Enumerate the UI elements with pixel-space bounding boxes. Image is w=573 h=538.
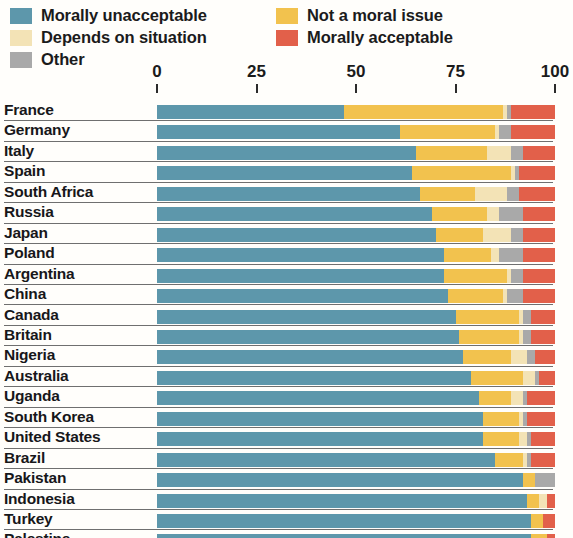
- bar-segment-other[interactable]: [499, 248, 523, 262]
- stacked-bar[interactable]: [157, 310, 555, 324]
- bar-segment-other[interactable]: [523, 310, 531, 324]
- stacked-bar[interactable]: [157, 289, 555, 303]
- bar-segment-unacceptable[interactable]: [157, 350, 463, 364]
- bar-segment-acceptable[interactable]: [523, 248, 555, 262]
- bar-segment-not_issue[interactable]: [456, 310, 520, 324]
- bar-segment-other[interactable]: [499, 125, 511, 139]
- bar-segment-not_issue[interactable]: [420, 187, 476, 201]
- bar-segment-acceptable[interactable]: [547, 494, 555, 508]
- bar-segment-unacceptable[interactable]: [157, 432, 483, 446]
- bar-segment-other[interactable]: [511, 146, 523, 160]
- bar-segment-depends[interactable]: [523, 371, 535, 385]
- bar-segment-other[interactable]: [523, 330, 531, 344]
- bar-segment-acceptable[interactable]: [523, 289, 555, 303]
- bar-segment-acceptable[interactable]: [523, 146, 555, 160]
- bar-segment-not_issue[interactable]: [527, 494, 539, 508]
- stacked-bar[interactable]: [157, 494, 555, 508]
- bar-segment-unacceptable[interactable]: [157, 187, 420, 201]
- stacked-bar[interactable]: [157, 391, 555, 405]
- bar-segment-other[interactable]: [499, 207, 523, 221]
- bar-segment-acceptable[interactable]: [535, 350, 555, 364]
- stacked-bar[interactable]: [157, 371, 555, 385]
- stacked-bar[interactable]: [157, 473, 555, 487]
- stacked-bar[interactable]: [157, 432, 555, 446]
- bar-segment-depends[interactable]: [519, 432, 527, 446]
- bar-segment-unacceptable[interactable]: [157, 105, 344, 119]
- bar-segment-acceptable[interactable]: [511, 105, 555, 119]
- bar-segment-acceptable[interactable]: [519, 166, 555, 180]
- bar-segment-not_issue[interactable]: [436, 228, 484, 242]
- bar-segment-acceptable[interactable]: [511, 125, 555, 139]
- bar-segment-unacceptable[interactable]: [157, 166, 412, 180]
- bar-segment-other[interactable]: [511, 228, 523, 242]
- stacked-bar[interactable]: [157, 207, 555, 221]
- bar-segment-not_issue[interactable]: [495, 453, 523, 467]
- bar-segment-unacceptable[interactable]: [157, 412, 483, 426]
- bar-segment-unacceptable[interactable]: [157, 453, 495, 467]
- bar-segment-acceptable[interactable]: [531, 310, 555, 324]
- bar-segment-other[interactable]: [507, 187, 519, 201]
- bar-segment-not_issue[interactable]: [483, 432, 519, 446]
- bar-segment-acceptable[interactable]: [547, 534, 555, 538]
- bar-segment-acceptable[interactable]: [539, 371, 555, 385]
- bar-segment-unacceptable[interactable]: [157, 473, 523, 487]
- bar-segment-unacceptable[interactable]: [157, 391, 479, 405]
- stacked-bar[interactable]: [157, 412, 555, 426]
- bar-segment-acceptable[interactable]: [531, 330, 555, 344]
- bar-segment-acceptable[interactable]: [531, 432, 555, 446]
- bar-segment-unacceptable[interactable]: [157, 269, 444, 283]
- bar-segment-acceptable[interactable]: [523, 269, 555, 283]
- bar-segment-unacceptable[interactable]: [157, 514, 531, 528]
- bar-segment-unacceptable[interactable]: [157, 310, 456, 324]
- stacked-bar[interactable]: [157, 105, 555, 119]
- bar-segment-unacceptable[interactable]: [157, 248, 444, 262]
- bar-segment-unacceptable[interactable]: [157, 494, 527, 508]
- bar-segment-not_issue[interactable]: [523, 473, 535, 487]
- bar-segment-acceptable[interactable]: [523, 228, 555, 242]
- bar-segment-acceptable[interactable]: [519, 187, 555, 201]
- bar-segment-depends[interactable]: [491, 248, 499, 262]
- bar-segment-not_issue[interactable]: [531, 514, 543, 528]
- bar-segment-not_issue[interactable]: [459, 330, 519, 344]
- bar-segment-acceptable[interactable]: [527, 412, 555, 426]
- bar-segment-depends[interactable]: [475, 187, 507, 201]
- stacked-bar[interactable]: [157, 514, 555, 528]
- bar-segment-not_issue[interactable]: [400, 125, 496, 139]
- stacked-bar[interactable]: [157, 248, 555, 262]
- bar-segment-not_issue[interactable]: [471, 371, 523, 385]
- bar-segment-unacceptable[interactable]: [157, 146, 416, 160]
- bar-segment-not_issue[interactable]: [444, 269, 508, 283]
- bar-segment-depends[interactable]: [487, 207, 499, 221]
- bar-segment-acceptable[interactable]: [527, 391, 555, 405]
- bar-segment-unacceptable[interactable]: [157, 125, 400, 139]
- bar-segment-other[interactable]: [535, 473, 555, 487]
- bar-segment-unacceptable[interactable]: [157, 289, 448, 303]
- bar-segment-unacceptable[interactable]: [157, 228, 436, 242]
- stacked-bar[interactable]: [157, 146, 555, 160]
- bar-segment-acceptable[interactable]: [543, 514, 555, 528]
- bar-segment-unacceptable[interactable]: [157, 534, 531, 538]
- bar-segment-not_issue[interactable]: [479, 391, 511, 405]
- stacked-bar[interactable]: [157, 228, 555, 242]
- bar-segment-not_issue[interactable]: [416, 146, 488, 160]
- stacked-bar[interactable]: [157, 269, 555, 283]
- bar-segment-unacceptable[interactable]: [157, 371, 471, 385]
- bar-segment-not_issue[interactable]: [483, 412, 519, 426]
- stacked-bar[interactable]: [157, 166, 555, 180]
- bar-segment-unacceptable[interactable]: [157, 207, 432, 221]
- bar-segment-depends[interactable]: [487, 146, 511, 160]
- stacked-bar[interactable]: [157, 187, 555, 201]
- stacked-bar[interactable]: [157, 453, 555, 467]
- bar-segment-depends[interactable]: [511, 350, 527, 364]
- bar-segment-depends[interactable]: [483, 228, 511, 242]
- stacked-bar[interactable]: [157, 534, 555, 538]
- bar-segment-acceptable[interactable]: [531, 453, 555, 467]
- bar-segment-not_issue[interactable]: [444, 248, 492, 262]
- bar-segment-not_issue[interactable]: [531, 534, 547, 538]
- bar-segment-depends[interactable]: [511, 391, 523, 405]
- bar-segment-acceptable[interactable]: [523, 207, 555, 221]
- bar-segment-not_issue[interactable]: [448, 289, 504, 303]
- bar-segment-other[interactable]: [527, 350, 535, 364]
- stacked-bar[interactable]: [157, 350, 555, 364]
- bar-segment-unacceptable[interactable]: [157, 330, 459, 344]
